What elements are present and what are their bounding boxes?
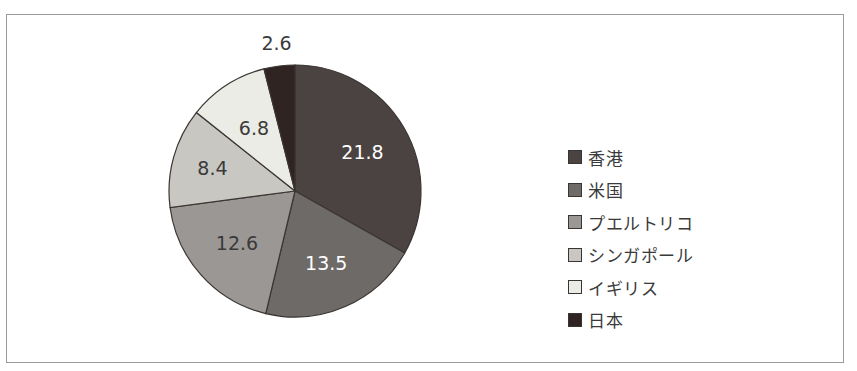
legend-label: 米国 [588, 177, 623, 202]
legend-item-uk: イギリス [568, 271, 693, 304]
legend-swatch [568, 313, 582, 327]
data-label: 12.6 [216, 232, 258, 254]
legend-swatch [568, 248, 582, 262]
legend-item-usa: 米国 [568, 174, 693, 207]
data-label: 2.6 [261, 32, 291, 54]
data-label: 13.5 [305, 252, 347, 274]
legend-label: イギリス [588, 275, 658, 300]
legend-label: 香港 [588, 145, 623, 170]
legend-item-japan: 日本 [568, 304, 693, 337]
legend-item-singapore: シンガポール [568, 239, 693, 272]
legend-label: シンガポール [588, 242, 693, 267]
legend: 香港 米国 プエルトリコ シンガポール イギリス 日本 [568, 141, 693, 336]
data-label: 6.8 [239, 117, 269, 139]
legend-swatch [568, 183, 582, 197]
legend-swatch [568, 215, 582, 229]
legend-item-puerto-rico: プエルトリコ [568, 206, 693, 239]
legend-swatch [568, 150, 582, 164]
pie-chart: 21.813.512.68.46.82.6 [0, 0, 857, 371]
data-label: 8.4 [197, 157, 227, 179]
legend-swatch [568, 280, 582, 294]
legend-label: プエルトリコ [588, 210, 693, 235]
data-label: 21.8 [341, 141, 383, 163]
legend-item-hong-kong: 香港 [568, 141, 693, 174]
legend-label: 日本 [588, 307, 623, 332]
